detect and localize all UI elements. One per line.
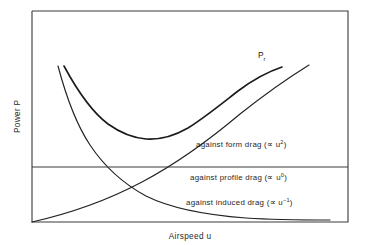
chart-canvas: Pr against form drag (∝ u2) against prof… <box>0 0 366 245</box>
induced-drag-label: against induced drag (∝ u−1) <box>186 197 293 207</box>
y-axis-label: Power P <box>13 99 22 133</box>
plot-frame <box>32 11 348 222</box>
profile-drag-label: against profile drag (∝ u0) <box>190 172 287 182</box>
induced-drag-label-prefix: against induced drag (∝ u <box>186 198 283 207</box>
induced-drag-label-exponent: −1 <box>283 197 290 203</box>
form-drag-label-suffix: ) <box>284 140 287 149</box>
total-power-label: Pr <box>258 50 266 62</box>
x-axis-label: Airspeed u <box>169 232 212 241</box>
form-drag-label: against form drag (∝ u2) <box>196 139 287 149</box>
profile-drag-label-suffix: ) <box>284 173 287 182</box>
total-power-subscript: r <box>264 56 266 62</box>
power-required-diagram: Pr against form drag (∝ u2) against prof… <box>0 0 366 245</box>
profile-drag-label-prefix: against profile drag (∝ u <box>190 173 281 182</box>
form-drag-label-prefix: against form drag (∝ u <box>196 140 280 149</box>
total-power-curve <box>64 66 282 139</box>
induced-drag-label-suffix: ) <box>290 198 293 207</box>
